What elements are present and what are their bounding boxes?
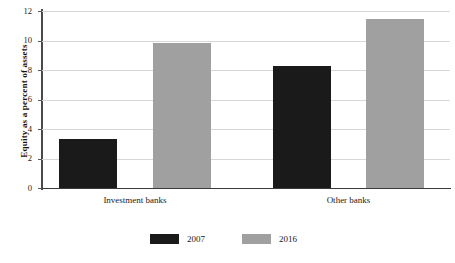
y-axis-tick-mark xyxy=(38,100,42,101)
legend-swatch-icon xyxy=(150,234,179,244)
y-axis-tick-label: 12 xyxy=(10,7,32,16)
y-axis-tick-label: 10 xyxy=(10,36,32,45)
legend-item-2016[interactable]: 2016 xyxy=(242,232,297,246)
bar-2007-investment-banks xyxy=(59,139,117,188)
x-axis-label-investment-banks: Investment banks xyxy=(59,195,211,205)
bar-2016-investment-banks xyxy=(153,43,211,188)
y-axis-tick-mark xyxy=(38,41,42,42)
legend-swatch-icon xyxy=(242,234,271,244)
y-axis-tick-mark xyxy=(38,159,42,160)
bar-2016-other-banks xyxy=(366,19,424,188)
y-axis-tick-label: 0 xyxy=(10,184,32,193)
legend-item-2007[interactable]: 2007 xyxy=(150,232,205,246)
gridline xyxy=(42,11,450,12)
legend-label: 2016 xyxy=(279,235,297,244)
y-axis-tick-mark xyxy=(38,188,42,189)
legend-label: 2007 xyxy=(187,235,205,244)
bar-chart: Equity as a percent of assets 121086420 … xyxy=(0,0,455,263)
x-axis-label-other-banks: Other banks xyxy=(273,195,424,205)
bar-2007-other-banks xyxy=(273,66,331,188)
chart-legend: 20072016 xyxy=(0,232,455,248)
y-axis-tick-mark xyxy=(38,11,42,12)
y-axis-tick-label: 4 xyxy=(10,125,32,134)
y-axis-tick-label: 2 xyxy=(10,154,32,163)
y-axis-tick-label: 8 xyxy=(10,66,32,75)
y-axis-tick-label: 6 xyxy=(10,95,32,104)
y-axis-tick-mark xyxy=(38,70,42,71)
y-axis-tick-mark xyxy=(38,129,42,130)
